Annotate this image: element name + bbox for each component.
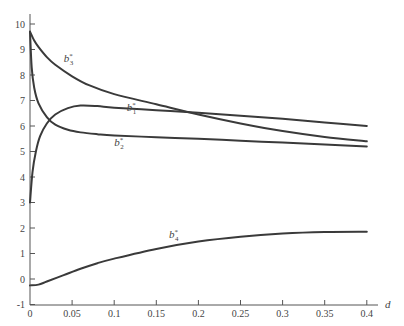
x-tick-label: 0 xyxy=(28,308,33,319)
series-label: b*1 xyxy=(127,101,137,116)
y-tick-label: 9 xyxy=(20,44,25,55)
y-tick-label: 2 xyxy=(20,223,25,234)
x-tick-label: 0.35 xyxy=(316,308,334,319)
x-tick-label: 0.2 xyxy=(192,308,205,319)
x-tick-label: 0.05 xyxy=(63,308,81,319)
curve-b1-star xyxy=(30,105,367,202)
x-ticks: 00.050.10.150.20.250.30.350.4 xyxy=(28,300,374,319)
y-tick-label: 4 xyxy=(20,172,25,183)
y-tick-label: 3 xyxy=(20,197,25,208)
x-tick-label: 0.15 xyxy=(148,308,166,319)
y-tick-label: -1 xyxy=(17,299,25,310)
chart: -1012345678910 00.050.10.150.20.250.30.3… xyxy=(0,0,404,326)
y-tick-label: 5 xyxy=(20,146,25,157)
x-axis-label: d xyxy=(385,298,391,310)
series-label: b*2 xyxy=(114,136,124,151)
x-tick-label: 0.3 xyxy=(276,308,289,319)
y-tick-label: 10 xyxy=(15,19,25,30)
x-tick-label: 0.1 xyxy=(108,308,121,319)
series-label: b*3 xyxy=(64,52,74,67)
y-tick-label: 7 xyxy=(20,95,25,106)
curve-b2-star xyxy=(30,32,367,147)
y-tick-label: 8 xyxy=(20,70,25,81)
curves xyxy=(30,32,367,286)
y-tick-label: 1 xyxy=(20,248,25,259)
y-tick-label: 0 xyxy=(20,274,25,285)
curve-b3-star xyxy=(30,32,367,142)
x-tick-label: 0.4 xyxy=(361,308,374,319)
y-tick-label: 6 xyxy=(20,121,25,132)
curve-b4-star xyxy=(30,232,367,286)
series-label: b*4 xyxy=(169,228,179,243)
x-tick-label: 0.25 xyxy=(232,308,250,319)
